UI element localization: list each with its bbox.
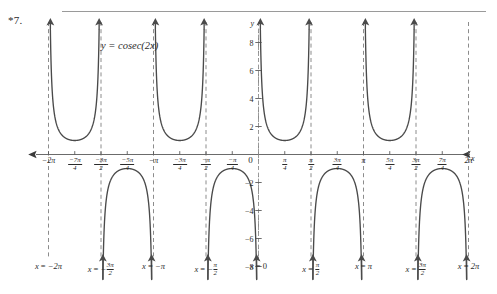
x-tick-label: 7π4 — [438, 157, 447, 172]
tick-denominator: 2 — [94, 164, 108, 172]
tick-denominator: 2 — [308, 164, 314, 172]
tick-numerator: 5π — [385, 157, 394, 164]
asymptote-caption: x = 3π2 — [406, 262, 427, 277]
x-tick-label: −π2 — [201, 157, 211, 172]
caption-part: −2π — [48, 261, 62, 271]
x-tick-label: −π4 — [227, 157, 237, 172]
y-axis-name: y — [251, 19, 255, 28]
tick-denominator: 2 — [411, 164, 420, 172]
curve-branch — [155, 29, 204, 140]
y-tick-label: 2 — [237, 122, 254, 131]
x-tick-label: −3π2 — [94, 157, 108, 172]
x-tick-label: π — [361, 157, 365, 165]
x-tick-label: −2π — [42, 157, 55, 165]
tick-numerator: −3π — [94, 157, 108, 164]
y-tick-label: 8 — [237, 38, 254, 47]
asymptote-caption: x = −2π — [35, 262, 62, 271]
tick-numerator: −7π — [68, 157, 82, 164]
asymptote-caption: x = −π2 — [194, 262, 217, 277]
y-tick-label: 4 — [237, 94, 254, 103]
caption-part: − — [101, 264, 107, 274]
figure-container: *7. y = cosec(2x) −2π−7π4−3π2−5π4−π−3π4−… — [0, 0, 497, 294]
caption-fraction: π2 — [316, 262, 320, 277]
x-axis-name: x — [471, 154, 475, 163]
caption-part: −π — [155, 261, 165, 271]
tick-numerator: π — [282, 157, 288, 164]
asymptote-caption: x = −3π2 — [88, 262, 115, 277]
x-tick-label-origin: 0 — [248, 156, 253, 165]
caption-fraction: π2 — [214, 262, 218, 277]
curve-branch — [260, 29, 309, 140]
caption-part: 2π — [471, 261, 480, 271]
caption-fraction: 3π2 — [419, 262, 426, 277]
x-tick-label: 3π2 — [411, 157, 420, 172]
caption-part: = — [91, 264, 100, 274]
curve-equation-label: y = cosec(2x) — [101, 40, 158, 51]
x-tick-label: 5π4 — [385, 157, 394, 172]
tick-denominator: 4 — [385, 164, 394, 172]
tick-numerator: −5π — [120, 157, 134, 164]
caption-part: = — [409, 264, 418, 274]
caption-part: = — [462, 261, 471, 271]
caption-fraction: 3π2 — [107, 262, 114, 277]
tick-numerator: 3π — [411, 157, 420, 164]
tick-denominator: 4 — [282, 164, 288, 172]
tick-denominator: 4 — [173, 164, 187, 172]
caption-part: = — [39, 261, 48, 271]
tick-numerator: 3π — [333, 157, 342, 164]
caption-part: − — [207, 264, 213, 274]
asymptote-caption: x = π — [355, 262, 372, 271]
tick-numerator: 7π — [438, 157, 447, 164]
caption-part: = — [146, 261, 155, 271]
asymptote-caption: x = −π — [142, 262, 165, 271]
x-tick-label: −3π4 — [173, 157, 187, 172]
y-tick-label: −4 — [237, 206, 254, 215]
x-tick-label: π2 — [308, 157, 314, 172]
x-tick-label: −7π4 — [68, 157, 82, 172]
caption-part: = — [359, 261, 368, 271]
x-tick-label: −5π4 — [120, 157, 134, 172]
y-tick-label: −6 — [237, 234, 254, 243]
caption-part: 0 — [263, 261, 267, 271]
asymptote-caption: x = π2 — [302, 262, 319, 277]
tick-denominator: 4 — [120, 164, 134, 172]
tick-denominator: 4 — [68, 164, 82, 172]
tick-numerator: −π — [227, 157, 237, 164]
curve-branch — [50, 29, 99, 140]
tick-denominator: 2 — [201, 164, 211, 172]
tick-denominator: 4 — [227, 164, 237, 172]
tick-denominator: 4 — [438, 164, 447, 172]
caption-part: π — [368, 261, 372, 271]
x-tick-label: 3π4 — [333, 157, 342, 172]
caption-part: = — [254, 261, 263, 271]
asymptote-caption: x = 2π — [458, 262, 479, 271]
curve-equation-text: y = cosec(2x) — [101, 40, 158, 51]
tick-numerator: −π — [201, 157, 211, 164]
tick-numerator: −3π — [173, 157, 187, 164]
asymptote-caption: x = 0 — [250, 262, 267, 271]
x-tick-label: −π — [149, 157, 158, 165]
tick-denominator: 4 — [333, 164, 342, 172]
y-tick-label: −2 — [237, 178, 254, 187]
tick-numerator: π — [308, 157, 314, 164]
x-tick-label: π4 — [282, 157, 288, 172]
curve-branch — [365, 29, 414, 140]
caption-part: = — [306, 264, 315, 274]
y-tick-label: 6 — [237, 66, 254, 75]
caption-part: = — [198, 264, 207, 274]
